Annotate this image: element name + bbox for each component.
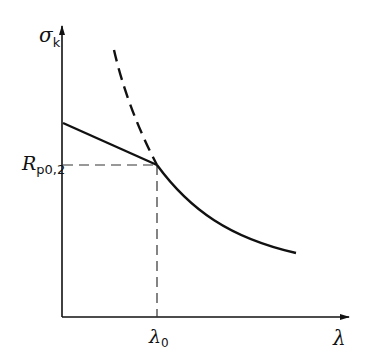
y-axis-label: σk (39, 23, 61, 50)
x-axis-label: λ (332, 326, 346, 350)
rp02-label: Rp0,2 (21, 152, 65, 177)
buckling-stress-diagram: σk λ Rp0,2 λ0 (0, 0, 370, 363)
lambda0-label: λ0 (148, 325, 169, 350)
inelastic-straight-line (63, 123, 157, 165)
euler-hyperbola-solid (157, 165, 296, 253)
